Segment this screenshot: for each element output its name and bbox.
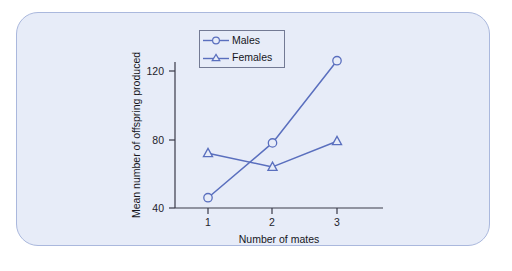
triangle-marker-icon xyxy=(202,51,230,64)
figure-root: 120 80 40 1 2 3 Number of mates Mean num… xyxy=(0,0,512,271)
legend-label-females: Females xyxy=(232,51,272,64)
legend-entry-females: Females xyxy=(202,50,280,65)
legend-label-males: Males xyxy=(232,34,260,47)
chart-legend: Males Females xyxy=(199,30,285,68)
circle-marker-icon xyxy=(202,34,230,47)
legend-entry-males: Males xyxy=(202,33,280,48)
